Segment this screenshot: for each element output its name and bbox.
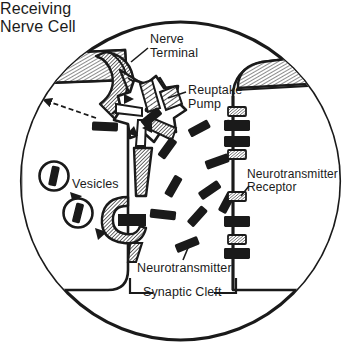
receptor-occupied [224,136,250,147]
label-neurotransmitter: Neurotransmitter [137,261,232,275]
label-vesicles: Vesicles [72,177,119,191]
figure-canvas: Nerve Terminal Reuptake Pump Receiving N… [0,0,361,361]
receptor-occupied [224,248,250,259]
receptor-empty [228,235,246,244]
receptor-empty [228,150,246,159]
label-nerve-terminal: Nerve Terminal [150,32,198,60]
label-reuptake-pump: Reuptake Pump [188,83,242,111]
vesicle [64,199,93,228]
label-synaptic-cleft: Synaptic Cleft [143,285,222,299]
label-neurotransmitter-receptor: Neurotransmitter Receptor [247,168,338,195]
receptor-occupied [224,216,250,227]
vesicle [40,162,69,191]
receptor-occupied [224,120,250,131]
label-receiving-nerve-cell: Receiving Nerve Cell [0,0,76,36]
